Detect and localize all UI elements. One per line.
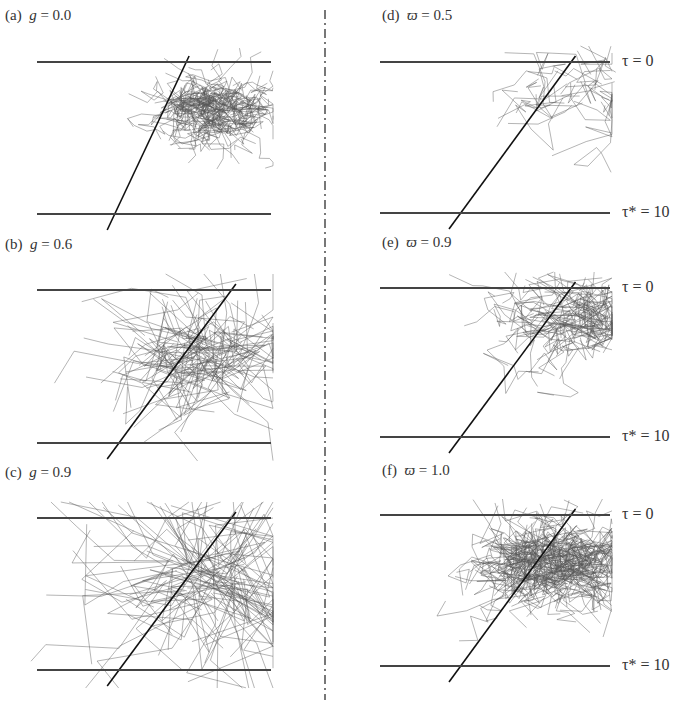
photon-path: [509, 611, 526, 628]
photon-path: [502, 517, 528, 531]
photon-path: [449, 275, 473, 286]
photon-path: [565, 105, 571, 112]
photon-path: [188, 155, 195, 163]
photon-path: [232, 154, 239, 164]
photon-path: [231, 317, 273, 332]
photon-path: [448, 565, 460, 576]
photon-path: [472, 547, 481, 566]
photon-path: [85, 582, 124, 605]
photon-path: [586, 134, 612, 141]
photon-path: [466, 565, 474, 589]
photon-path: [241, 356, 273, 363]
photon-path: [561, 83, 569, 94]
photon-path: [257, 643, 273, 688]
incident-beam: [449, 56, 576, 229]
photon-path: [491, 506, 498, 521]
photon-path: [245, 72, 252, 87]
photon-path: [252, 82, 257, 85]
photon-path: [142, 114, 160, 116]
photon-path: [72, 530, 90, 563]
photon-path: [259, 153, 261, 158]
photon-path: [553, 64, 566, 66]
photon-path: [557, 620, 576, 622]
photon-path: [72, 562, 169, 563]
photon-path: [86, 646, 120, 688]
photon-path: [499, 341, 507, 342]
photon-path: [580, 592, 584, 605]
photon-path: [250, 52, 261, 58]
photon-path: [120, 379, 181, 383]
photon-path: [232, 77, 242, 91]
photon-path: [487, 350, 504, 366]
photon-path: [217, 159, 223, 169]
photon-path: [219, 64, 222, 74]
photon-path: [188, 646, 273, 682]
photon-path: [599, 68, 604, 79]
photon-path: [239, 48, 241, 56]
photon-path: [582, 596, 592, 597]
photon-path: [189, 67, 196, 69]
photon-path: [488, 292, 505, 315]
photon-path: [596, 600, 611, 601]
photon-path: [473, 500, 489, 524]
photon-path: [557, 613, 575, 619]
photon-path: [588, 143, 611, 166]
photon-path: [223, 144, 224, 159]
photon-path: [254, 274, 258, 303]
photon-path: [128, 114, 142, 119]
photon-path: [568, 612, 590, 632]
photon-path: [563, 348, 579, 373]
photon-path: [595, 499, 602, 513]
photon-path: [498, 102, 530, 119]
photon-path: [488, 292, 495, 297]
photon-path: [114, 560, 173, 561]
photon-path: [554, 86, 556, 103]
photon-path: [238, 371, 263, 399]
photon-path: [548, 614, 561, 615]
photon-path: [74, 351, 138, 363]
photon-path: [524, 596, 546, 602]
photon-path: [31, 645, 46, 662]
photon-path: [165, 327, 217, 343]
photon-path: [170, 353, 223, 354]
photon-path: [474, 587, 493, 595]
photon-path: [69, 502, 152, 539]
photon-path: [54, 351, 74, 383]
photon-path: [269, 158, 273, 162]
photon-path: [126, 387, 128, 424]
photon-path: [556, 611, 568, 612]
photon-path: [211, 148, 230, 149]
photon-path: [536, 52, 576, 54]
photon-path: [437, 611, 467, 616]
photon-path: [257, 76, 260, 89]
photon-path: [457, 569, 470, 572]
photon-path: [565, 85, 595, 87]
photon-path: [172, 64, 179, 69]
photon-path: [84, 338, 109, 344]
photon-path: [187, 673, 246, 688]
photon-path: [473, 534, 498, 544]
photon-path: [472, 534, 473, 547]
photon-path: [477, 307, 495, 322]
photon-path: [102, 502, 132, 547]
photon-path: [175, 432, 198, 461]
photon-path: [484, 298, 488, 310]
photon-path: [147, 289, 151, 321]
photon-path: [502, 90, 518, 92]
photon-path: [580, 46, 606, 59]
photon-path: [129, 94, 148, 103]
photon-path: [128, 119, 134, 127]
photon-path: [561, 368, 563, 383]
incident-beam: [107, 56, 189, 230]
photon-path: [270, 71, 273, 81]
photon-path: [134, 125, 147, 131]
photon-path: [166, 274, 202, 295]
photon-path: [487, 344, 504, 350]
photon-path: [486, 548, 489, 559]
photon-path: [508, 123, 538, 124]
photon-path: [472, 540, 485, 545]
photon-path: [212, 380, 246, 390]
photon-path: [540, 504, 546, 521]
photon-path: [113, 310, 178, 322]
photon-path: [152, 378, 177, 420]
